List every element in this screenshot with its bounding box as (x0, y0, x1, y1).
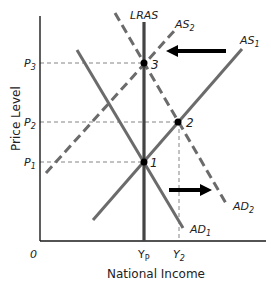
ad1-label-main: AD (189, 223, 206, 236)
point-1-dot (141, 159, 148, 166)
point-2-dot (175, 119, 182, 126)
p3-label: P3 (24, 57, 36, 72)
ad1-label-sub: 1 (206, 229, 211, 238)
ad1-label: AD1 (189, 223, 211, 238)
ad2-label: AD2 (232, 200, 254, 215)
as1-label: AS1 (239, 34, 260, 49)
point-3-label: 3 (151, 58, 159, 72)
yp-label-sub: P (145, 254, 150, 263)
as2-curve (46, 30, 175, 173)
as2-label-sub: 2 (190, 24, 195, 33)
y2-label-sub: 2 (180, 254, 185, 263)
ad-as-diagram: 1 2 3 LRAS AS2 AS1 AD2 AD1 P3 P2 P1 0 YP… (0, 0, 271, 282)
ad2-label-main: AD (232, 200, 249, 213)
as1-label-main: AS (239, 34, 255, 47)
y-axis-title: Price Level (9, 86, 23, 151)
as1-label-sub: 1 (255, 40, 260, 49)
x-axis-title: National Income (107, 267, 205, 281)
origin-label: 0 (30, 248, 37, 261)
as2-label: AS2 (174, 18, 195, 33)
yp-label: YP (137, 248, 150, 263)
as2-label-main: AS (174, 18, 190, 31)
arrow-right-icon (169, 184, 212, 196)
y2-label: Y2 (173, 248, 185, 263)
ad1-curve (77, 50, 183, 228)
as1-curve (93, 49, 242, 220)
lras-label: LRAS (130, 9, 158, 22)
arrow-left-icon (166, 45, 226, 57)
p1-label-sub: 1 (31, 162, 36, 171)
point-3-dot (141, 60, 148, 67)
point-2-label: 2 (186, 116, 194, 130)
p2-label-sub: 2 (31, 122, 36, 131)
point-1-label: 1 (150, 156, 158, 170)
p1-label: P1 (24, 156, 36, 171)
p2-label: P2 (24, 116, 36, 131)
p3-label-sub: 3 (31, 63, 36, 72)
ad2-label-sub: 2 (249, 206, 254, 215)
